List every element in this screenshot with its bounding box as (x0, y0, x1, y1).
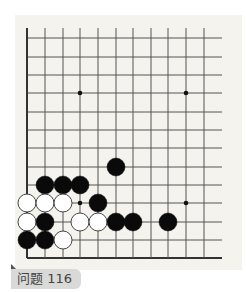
go-board (0, 0, 246, 292)
black-stone (36, 176, 54, 194)
white-stone (89, 213, 107, 231)
black-stone (54, 176, 72, 194)
star-point (78, 91, 83, 96)
black-stone (159, 213, 177, 231)
black-stone (107, 213, 125, 231)
star-point (78, 201, 83, 206)
black-stone (89, 194, 107, 212)
star-point (184, 201, 189, 206)
black-stone (71, 176, 89, 194)
black-stone (107, 158, 125, 176)
white-stone (18, 194, 36, 212)
white-stone (18, 213, 36, 231)
white-stone (71, 213, 89, 231)
black-stone (36, 213, 54, 231)
black-stone (124, 213, 142, 231)
white-stone (54, 194, 72, 212)
black-stone (36, 231, 54, 249)
black-stone (18, 231, 36, 249)
white-stone (36, 194, 54, 212)
star-point (184, 91, 189, 96)
problem-label: 问题 116 (11, 269, 81, 289)
white-stone (54, 231, 72, 249)
